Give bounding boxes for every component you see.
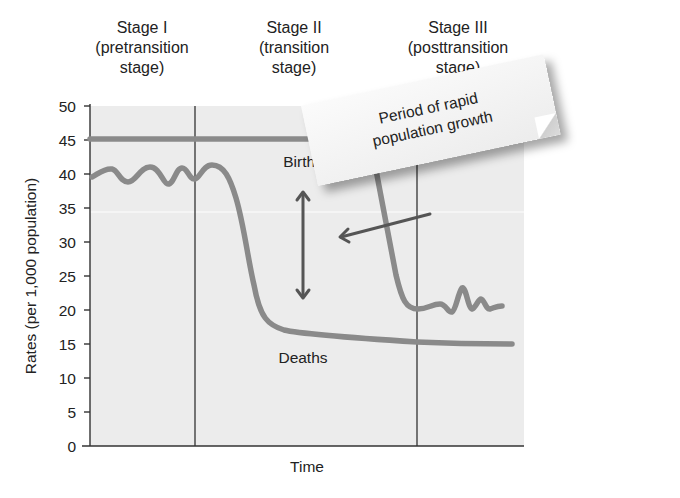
chart: 50 45 40 35 30 25 20 15 10 5 0 Rates (pe… xyxy=(0,0,680,498)
y-tick-labels: 50 45 40 35 30 25 20 15 10 5 0 xyxy=(59,98,77,455)
deaths-label: Deaths xyxy=(278,349,327,366)
y-tick-15: 15 xyxy=(59,336,76,353)
y-tick-0: 0 xyxy=(67,438,76,455)
y-tick-25: 25 xyxy=(59,268,76,285)
y-tick-40: 40 xyxy=(59,166,77,183)
page-curl-icon xyxy=(534,113,560,139)
x-axis-title: Time xyxy=(290,458,324,475)
y-tick-50: 50 xyxy=(59,98,77,115)
y-tick-20: 20 xyxy=(59,302,77,319)
y-tick-45: 45 xyxy=(59,132,76,149)
y-tick-35: 35 xyxy=(59,200,76,217)
y-axis-title: Rates (per 1,000 population) xyxy=(22,178,39,374)
y-tick-30: 30 xyxy=(59,234,77,251)
y-tick-10: 10 xyxy=(59,370,77,387)
y-tick-5: 5 xyxy=(67,404,76,421)
